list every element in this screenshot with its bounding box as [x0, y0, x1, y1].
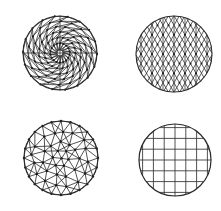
mesh-figure [0, 0, 221, 211]
mesh-figure-canvas [0, 0, 221, 211]
